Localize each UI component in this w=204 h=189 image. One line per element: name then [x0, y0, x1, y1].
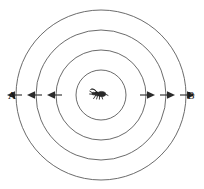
left-arrow-1 — [47, 91, 62, 99]
insect-leg-1 — [94, 96, 96, 99]
insect-source-icon — [90, 89, 108, 99]
right-arrow-head-2 — [167, 91, 175, 99]
label-point-a: A — [8, 89, 16, 101]
insect-tail — [106, 94, 108, 95]
label-point-b: B — [187, 89, 194, 101]
right-arrow-2 — [160, 91, 175, 99]
wave-diagram-figure: A B — [0, 0, 204, 189]
left-arrow-head-2 — [27, 91, 35, 99]
right-arrow-1 — [140, 91, 155, 99]
left-arrow-head-1 — [47, 91, 55, 99]
right-arrow-head-1 — [147, 91, 155, 99]
diagram-canvas: A B — [0, 0, 204, 189]
insect-antenna-1 — [90, 91, 93, 93]
insect-leg-2 — [97, 96, 98, 99]
left-arrow-2 — [27, 91, 42, 99]
